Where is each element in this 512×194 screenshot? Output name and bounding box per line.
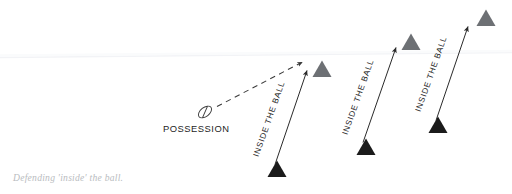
defender-triangle bbox=[313, 61, 332, 78]
attacker-triangle bbox=[268, 161, 287, 178]
attacker-triangle bbox=[357, 139, 376, 156]
defender-triangle bbox=[477, 10, 496, 27]
possession-label: POSSESSION bbox=[163, 123, 229, 134]
defender-triangle bbox=[402, 34, 421, 51]
pass-direction-arrow bbox=[217, 62, 303, 107]
figure-caption: Defending 'inside' the ball. bbox=[13, 172, 123, 183]
formation-group-3 bbox=[429, 10, 496, 134]
diagram-graphics bbox=[0, 0, 512, 194]
attacker-triangle bbox=[429, 117, 448, 134]
diagram-canvas: POSSESSION INSIDE THE BALL INSIDE THE BA… bbox=[0, 0, 512, 194]
formation-group-1 bbox=[268, 61, 332, 178]
rugby-ball-icon bbox=[196, 104, 214, 120]
